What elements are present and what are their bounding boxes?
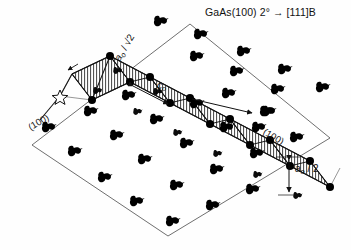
lower-terrace-plane: [32, 24, 330, 236]
figure-title: GaAs(100) 2° → [111]B: [205, 6, 316, 18]
label-step-height: ao / 2: [295, 163, 319, 176]
diagram-svg: [0, 0, 351, 250]
label-step-period-subscript: o: [162, 84, 166, 93]
left-edge-marker: [68, 64, 78, 70]
figure-canvas: GaAs(100) 2° → [111]B ao / √2 co ao / 2 …: [0, 0, 351, 250]
label-step-height-tail: / 2: [305, 163, 319, 174]
label-step-period: co: [157, 80, 166, 93]
